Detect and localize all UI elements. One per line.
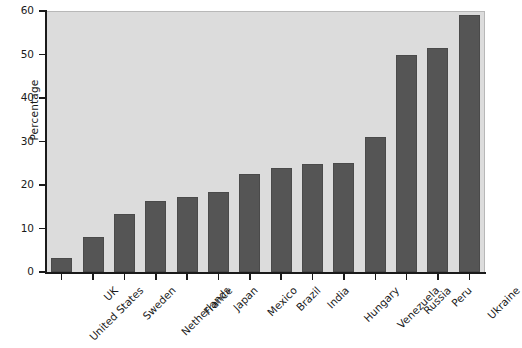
x-axis-tick	[280, 273, 282, 280]
x-axis-tick	[406, 273, 408, 280]
y-axis-tick-label: 10	[0, 222, 34, 234]
y-axis-tick-label: 40	[0, 91, 34, 103]
x-axis-label-wrapper: Sweden	[141, 284, 179, 322]
y-axis-tick	[39, 184, 46, 186]
x-axis-tick-label: Mexico	[265, 284, 299, 318]
x-axis-line	[45, 272, 486, 274]
x-axis-tick-label: Brazil	[294, 284, 323, 313]
x-axis-tick	[375, 273, 377, 280]
x-axis-label-wrapper: UK	[101, 284, 120, 303]
y-axis-tick-label: 0	[0, 265, 34, 277]
y-axis-tick-label: 60	[0, 4, 34, 16]
y-axis-tick	[39, 10, 46, 12]
x-axis-tick-label: Ukraine	[485, 284, 522, 321]
x-axis-tick	[186, 273, 188, 280]
bar	[302, 164, 323, 272]
x-axis-label-wrapper: India	[324, 284, 351, 311]
x-axis-tick-label: Japan	[231, 284, 260, 313]
bar	[208, 192, 229, 272]
x-axis-tick	[343, 273, 345, 280]
bar	[396, 55, 417, 272]
x-axis-label-wrapper: Japan	[231, 284, 260, 313]
bar	[83, 237, 104, 272]
x-axis-tick-label: Hungary	[361, 284, 401, 324]
bar	[114, 214, 135, 272]
x-axis-tick-label: Peru	[449, 284, 474, 309]
y-axis-tick-label: 30	[0, 135, 34, 147]
x-axis-tick-label: UK	[101, 284, 120, 303]
y-axis-tick	[39, 141, 46, 143]
x-axis-label-wrapper: Hungary	[361, 284, 401, 324]
x-axis-tick	[61, 273, 63, 280]
x-axis-tick-label: India	[324, 284, 351, 311]
x-axis-tick	[312, 273, 314, 280]
bar	[427, 48, 448, 272]
y-axis-tick-label: 50	[0, 48, 34, 60]
x-axis-tick	[218, 273, 220, 280]
y-axis-tick	[39, 97, 46, 99]
x-axis-tick	[469, 273, 471, 280]
y-axis-tick	[39, 54, 46, 56]
bar	[145, 201, 166, 272]
y-axis-tick-label: 20	[0, 178, 34, 190]
bar	[239, 174, 260, 272]
y-axis-tick	[39, 271, 46, 273]
x-axis-tick	[155, 273, 157, 280]
bar	[333, 163, 354, 272]
x-axis-label-wrapper: Peru	[449, 284, 474, 309]
bars-layer	[46, 11, 485, 272]
bar	[177, 197, 198, 272]
x-axis-tick	[124, 273, 126, 280]
bar	[365, 137, 386, 272]
bar	[459, 15, 480, 272]
x-axis-tick	[92, 273, 94, 280]
x-axis-tick	[249, 273, 251, 280]
x-axis-label-wrapper: Mexico	[265, 284, 299, 318]
x-axis-label-wrapper: Brazil	[294, 284, 323, 313]
x-axis-tick	[437, 273, 439, 280]
x-axis-tick-label: Sweden	[141, 284, 179, 322]
y-axis-tick	[39, 228, 46, 230]
bar	[51, 258, 72, 272]
x-axis-label-wrapper: Ukraine	[485, 284, 522, 321]
bar	[271, 168, 292, 272]
